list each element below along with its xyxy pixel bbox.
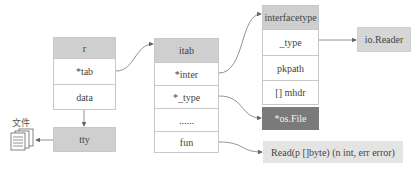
edge-tab-to-itab bbox=[116, 44, 153, 71]
interfacetype-field-type: _type bbox=[263, 30, 318, 56]
r-struct: r *tab data bbox=[53, 37, 116, 110]
os-file-box: *os.File bbox=[262, 107, 319, 130]
itab-field-ellipsis: ...... bbox=[155, 109, 218, 132]
itab-field-inter: *inter bbox=[155, 63, 218, 86]
file-stack-icon bbox=[10, 128, 36, 152]
edge-inter-to-interfacetype bbox=[219, 14, 261, 73]
tty-box: tty bbox=[53, 127, 116, 152]
r-field-tab: *tab bbox=[54, 59, 115, 85]
read-func-box: Read(p []byte) (n int, err error) bbox=[263, 141, 403, 163]
r-field-data: data bbox=[54, 85, 115, 109]
interfacetype-field-mhdr: [] mhdr bbox=[263, 81, 318, 104]
interfacetype-struct: interfacetype _type pkpath [] mhdr bbox=[262, 5, 319, 105]
itab-header: itab bbox=[155, 39, 218, 63]
itab-field-fun: fun bbox=[155, 132, 218, 152]
itab-struct: itab *inter *_type ...... fun bbox=[154, 38, 219, 153]
interfacetype-header: interfacetype bbox=[263, 6, 318, 30]
edge-fun-to-read bbox=[219, 142, 262, 152]
edge-type-to-osfile bbox=[219, 96, 261, 118]
itab-field-type: *_type bbox=[155, 86, 218, 109]
interfacetype-field-pkpath: pkpath bbox=[263, 56, 318, 81]
io-reader-box: io.Reader bbox=[357, 27, 411, 52]
r-header: r bbox=[54, 38, 115, 59]
